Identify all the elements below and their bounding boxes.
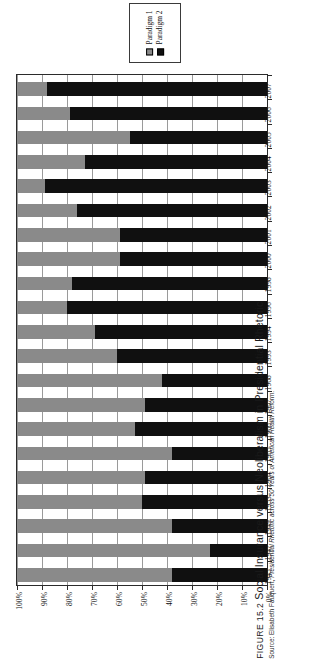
value-tick-label: 60% (116, 592, 124, 606)
caption-title: FIGURE 15.2 Social Insurance versus Neol… (253, 359, 266, 659)
bar-segment-paradigm-1 (17, 495, 142, 509)
category-tick (268, 124, 272, 125)
category-tick (268, 172, 272, 173)
value-tick (217, 586, 218, 590)
bar-row (17, 349, 267, 363)
value-tick-label: 100% (16, 592, 24, 610)
category-tick-label: 2006 (265, 108, 273, 123)
value-tick-label: 10% (241, 592, 249, 606)
bar-row (17, 495, 267, 509)
bar-segment-paradigm-1 (17, 277, 72, 291)
category-tick (268, 294, 272, 295)
legend-swatch-gray-icon (146, 48, 153, 55)
bar-segment-paradigm-1 (17, 544, 210, 558)
legend-entry-paradigm-2: Paradigm 2 (157, 11, 164, 56)
category-tick-label: 2002 (265, 205, 273, 220)
bar-segment-paradigm-1 (17, 155, 85, 169)
chart-legend: Paradigm 1 Paradigm 2 (129, 3, 181, 63)
category-tick (268, 221, 272, 222)
bar-segment-paradigm-2 (47, 82, 267, 96)
bar-segment-paradigm-1 (17, 471, 145, 485)
bar-row (17, 228, 267, 242)
figure-caption: FIGURE 15.2 Social Insurance versus Neol… (253, 359, 276, 659)
value-tick-label: 90% (41, 592, 49, 606)
value-tick-label: 20% (216, 592, 224, 606)
value-tick (67, 586, 68, 590)
bar-row (17, 325, 267, 339)
bar-segment-paradigm-2 (85, 155, 268, 169)
bar-segment-paradigm-2 (45, 179, 268, 193)
bar-row (17, 82, 267, 96)
bar-segment-paradigm-1 (17, 422, 135, 436)
category-tick-label: 2005 (265, 132, 273, 147)
bar-row (17, 374, 267, 388)
bar-segment-paradigm-2 (120, 228, 268, 242)
bar-row (17, 179, 267, 193)
legend-label-paradigm-1: Paradigm 1 (146, 11, 153, 45)
bar-segment-paradigm-2 (130, 131, 268, 145)
chart-plot-area (17, 75, 267, 585)
legend-entry-paradigm-1: Paradigm 1 (146, 11, 153, 56)
bar-row (17, 398, 267, 412)
value-tick-label: 30% (191, 592, 199, 606)
bar-segment-paradigm-1 (17, 374, 162, 388)
value-tick-label: 70% (91, 592, 99, 606)
value-tick-label: 50% (141, 592, 149, 606)
bar-segment-paradigm-2 (67, 301, 267, 315)
bar-row (17, 131, 267, 145)
category-tick-label: 1996 (265, 302, 273, 317)
bar-row (17, 568, 267, 582)
bar-segment-paradigm-1 (17, 131, 130, 145)
caption-source-prefix: Source: Elisabeth Fauquert, (268, 580, 275, 659)
category-tick (268, 318, 272, 319)
legend-entries: Paradigm 1 Paradigm 2 (146, 11, 164, 56)
bar-segment-paradigm-2 (117, 349, 267, 363)
category-tick-label: 1998 (265, 278, 273, 293)
bar-segment-paradigm-1 (17, 204, 77, 218)
bar-row (17, 471, 267, 485)
caption-figure-number: FIGURE 15.2 (255, 603, 265, 659)
bar-segment-paradigm-1 (17, 179, 45, 193)
category-tick (268, 148, 272, 149)
bar-row (17, 301, 267, 315)
bar-segment-paradigm-1 (17, 252, 120, 266)
value-tick-label: 40% (166, 592, 174, 606)
bar-segment-paradigm-2 (77, 204, 267, 218)
caption-source-title: Presidential Rhetoric across 50 Years of… (268, 393, 275, 578)
category-tick-label: 2000 (265, 253, 273, 268)
bar-segment-paradigm-1 (17, 325, 95, 339)
value-tick (17, 586, 18, 590)
value-tick (117, 586, 118, 590)
value-axis: 100%90%80%70%60%50%40%30%20%10%0% (16, 586, 268, 632)
bar-row (17, 107, 267, 121)
bar-segment-paradigm-2 (145, 398, 268, 412)
bar-segment-paradigm-2 (142, 495, 267, 509)
caption-title-text: Social Insurance versus Neoliberalism in… (253, 302, 265, 600)
category-tick (268, 99, 272, 100)
bar-segment-paradigm-1 (17, 519, 172, 533)
value-tick (142, 586, 143, 590)
category-tick-label: 2004 (265, 156, 273, 171)
bar-segment-paradigm-1 (17, 228, 120, 242)
bar-segment-paradigm-1 (17, 301, 67, 315)
bar-row (17, 277, 267, 291)
category-tick-label: 2003 (265, 180, 273, 195)
category-tick (268, 245, 272, 246)
bar-segment-paradigm-2 (70, 107, 268, 121)
legend-swatch-black-icon (157, 48, 164, 55)
bar-row (17, 155, 267, 169)
category-tick (268, 75, 272, 76)
category-tick (268, 196, 272, 197)
bar-row (17, 204, 267, 218)
category-tick-label: 2001 (265, 229, 273, 244)
bar-segment-paradigm-1 (17, 82, 47, 96)
bar-row (17, 252, 267, 266)
category-tick (268, 342, 272, 343)
bar-segment-paradigm-1 (17, 107, 70, 121)
bar-segment-paradigm-2 (95, 325, 268, 339)
chart-plot-frame (16, 74, 268, 586)
bar-row (17, 447, 267, 461)
value-tick (167, 586, 168, 590)
value-tick (92, 586, 93, 590)
value-tick (192, 586, 193, 590)
